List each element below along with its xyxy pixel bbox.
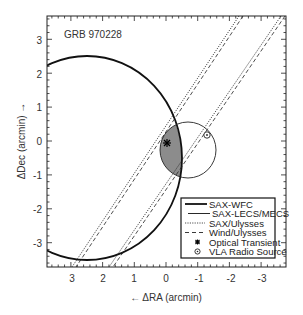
legend: SAX-WFC SAX-LECS/MECS SAX/Ulysses Wind/U… (181, 198, 289, 258)
x-tick-label: 0 (163, 273, 169, 284)
optical-transient-marker (163, 139, 171, 147)
x-tick-labels: 3 2 1 0 -1 -2 -3 (69, 273, 267, 284)
x-tick-label: 2 (100, 273, 106, 284)
y-tick-label: 2 (36, 69, 42, 80)
x-tick-label: 3 (69, 273, 75, 284)
y-tick-label: -2 (33, 204, 42, 215)
x-tick-label: -2 (227, 273, 236, 284)
vla-radio-source-marker (204, 132, 210, 138)
legend-label: VLA Radio Source (209, 246, 287, 257)
asterisk-icon (195, 240, 200, 245)
x-axis-label: ← ΔRA (arcmin) (130, 292, 202, 303)
x-tick-label: -1 (195, 273, 204, 284)
circled-dot-icon (195, 249, 200, 254)
y-tick-label: -1 (33, 170, 42, 181)
y-tick-label: 0 (36, 136, 42, 147)
sax-wfc-circle (0, 56, 182, 260)
grb-localization-chart: 3 2 1 0 -1 -2 -3 3 2 1 0 -1 -2 -3 ← ΔRA … (0, 0, 303, 315)
x-tick-label: 1 (131, 273, 137, 284)
y-axis-label: ΔDec (arcmin) → (16, 103, 27, 180)
y-tick-label: 3 (36, 35, 42, 46)
y-tick-label: 1 (36, 102, 42, 113)
y-tick-labels: 3 2 1 0 -1 -2 -3 (33, 35, 42, 249)
x-tick-label: -3 (258, 273, 267, 284)
chart-title: GRB 970228 (64, 29, 122, 40)
y-tick-label: -3 (33, 238, 42, 249)
